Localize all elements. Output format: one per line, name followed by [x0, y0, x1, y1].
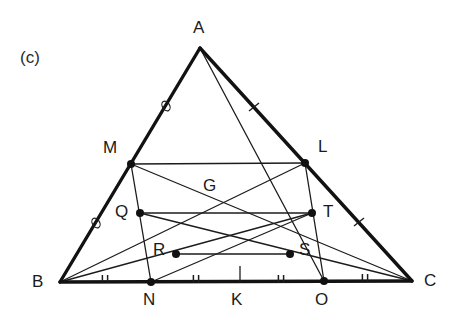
point-label-t: T: [323, 202, 334, 222]
point-label-n: N: [143, 290, 155, 310]
point-label-a: A: [193, 18, 205, 38]
point-dot-t: [308, 209, 316, 217]
point-dot-r: [172, 250, 180, 258]
point-label-b: B: [32, 272, 44, 292]
point-label-q: Q: [115, 202, 128, 222]
geometry-figure: (c) ABCMLGQTRSNKO: [0, 0, 459, 320]
segment-ML: [131, 163, 305, 164]
point-dot-q: [136, 209, 144, 217]
point-dot-n: [147, 278, 155, 286]
point-label-k: K: [231, 290, 243, 310]
point-label-o: O: [315, 290, 328, 310]
point-dot-l: [301, 159, 309, 167]
point-dot-s: [286, 250, 294, 258]
point-dot-o: [320, 277, 328, 285]
thin-segments-group: [60, 48, 412, 282]
tick-marks-group: [90, 100, 367, 283]
point-label-l: L: [318, 137, 328, 157]
point-label-r: R: [153, 240, 165, 260]
triangle-sides-group: [60, 48, 412, 282]
cevian-MN: [131, 164, 151, 282]
side-BC: [60, 281, 412, 282]
point-label-g: G: [203, 176, 216, 196]
point-label-m: M: [103, 138, 117, 158]
geometry-canvas: [0, 0, 459, 320]
figure-caption: (c): [20, 48, 40, 68]
point-label-c: C: [424, 271, 436, 291]
point-label-s: S: [299, 240, 311, 260]
cevian-NG-ext: [151, 213, 312, 282]
point-dot-m: [127, 160, 135, 168]
point-dots-group: [127, 159, 328, 286]
cevian-BT: [60, 213, 312, 282]
